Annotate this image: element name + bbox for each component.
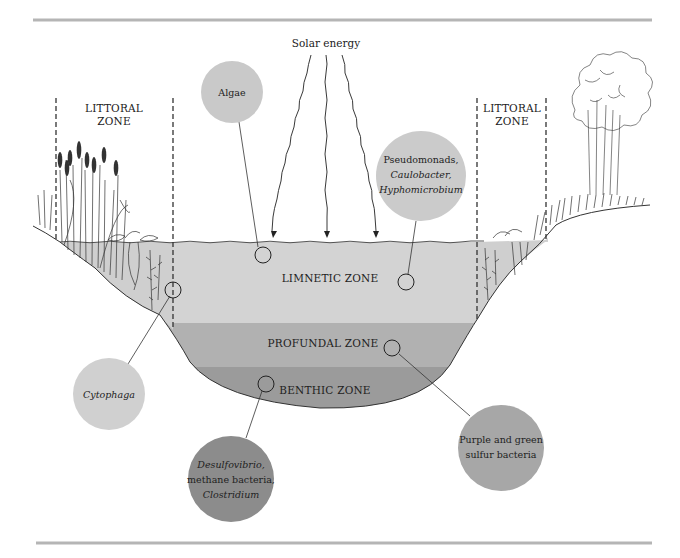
cattail-heads (58, 141, 119, 176)
tree-illustration (572, 52, 653, 195)
solar-ray-center (325, 55, 327, 231)
littoral-shallow-right (477, 240, 548, 318)
solar-rays (272, 55, 376, 231)
callout-cytophaga: Cytophaga (73, 358, 145, 430)
solar-arrowheads (271, 231, 379, 238)
bubble-sulfur-line2: sulfur bacteria (466, 449, 537, 460)
bubble-sulfur-line1: Purple and green (459, 434, 543, 445)
bubble-desulfovibrio-line3: Clostridium (203, 489, 260, 500)
arrowhead-icon (324, 231, 330, 238)
bubble-cytophaga-line1: Cytophaga (83, 389, 135, 400)
littoral-left-line2: ZONE (97, 115, 131, 127)
bubble-desulfovibrio-line1: Desulfovibrio, (196, 459, 264, 470)
littoral-right-label: LITTORAL ZONE (483, 102, 541, 127)
cattail-reeds-illustration (38, 158, 130, 280)
solar-ray-left (272, 55, 311, 231)
littoral-left-label: LITTORAL ZONE (85, 102, 143, 127)
callout-pseudomonads: Pseudomonads, Caulobacter, Hyphomicrobiu… (376, 131, 466, 221)
bubble-desulfovibrio-line2: methane bacteria, (187, 474, 275, 485)
littoral-left-line1: LITTORAL (85, 102, 143, 114)
littoral-right-line1: LITTORAL (483, 102, 541, 114)
leader-algae (239, 122, 258, 247)
lake-zonation-diagram: Solar energy LITTORAL ZONE LITTORAL ZONE… (0, 0, 680, 558)
bubble-pseudomonads-line1: Pseudomonads, (383, 154, 458, 165)
callout-algae: Algae (201, 61, 263, 123)
callout-sulfur-bacteria: Purple and green sulfur bacteria (458, 405, 544, 491)
bubble-pseudomonads-line3: Hyphomicrobium (378, 184, 462, 195)
arrowhead-icon (373, 231, 379, 238)
solar-ray-right (342, 55, 376, 231)
littoral-right-line2: ZONE (495, 115, 529, 127)
solar-energy-label: Solar energy (292, 37, 360, 49)
benthic-zone-label: BENTHIC ZONE (279, 384, 370, 396)
limnetic-zone-label: LIMNETIC ZONE (282, 272, 379, 284)
arrowhead-icon (271, 231, 277, 238)
bubble-algae-line1: Algae (217, 87, 246, 98)
profundal-zone-label: PROFUNDAL ZONE (268, 337, 379, 349)
callout-desulfovibrio: Desulfovibrio, methane bacteria, Clostri… (187, 436, 275, 522)
bubble-sulfur (458, 405, 544, 491)
bubble-pseudomonads-line2: Caulobacter, (391, 169, 452, 180)
